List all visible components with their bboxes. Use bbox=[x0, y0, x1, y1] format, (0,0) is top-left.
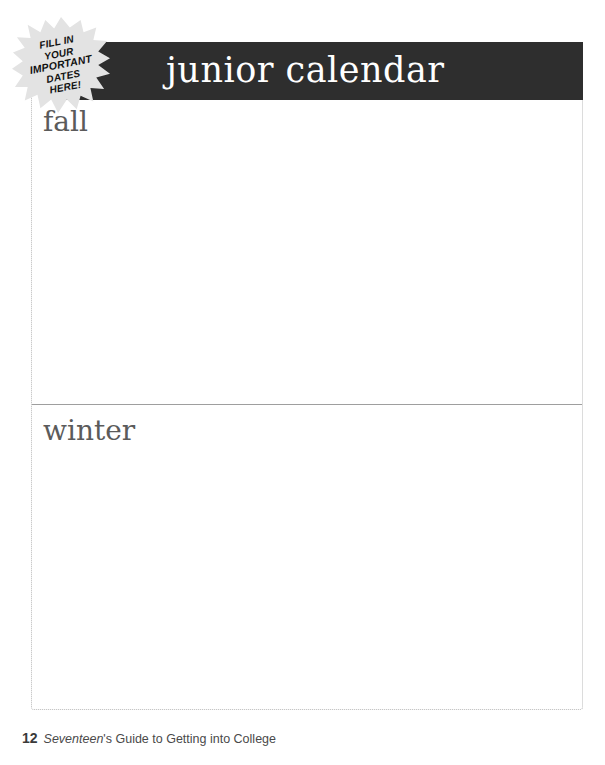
footer-page-number: 12 bbox=[22, 730, 38, 746]
page-footer: 12 Seventeen's Guide to Getting into Col… bbox=[22, 730, 276, 746]
season-label-winter: winter bbox=[43, 417, 135, 445]
season-label-fall: fall bbox=[43, 108, 88, 136]
footer-brand-name: Seventeen bbox=[44, 732, 104, 746]
season-writing-area-winter[interactable] bbox=[32, 405, 582, 710]
fill-in-dates-starburst: FILL IN YOUR IMPORTANT DATES HERE! bbox=[12, 17, 110, 113]
page-title: junior calendar bbox=[166, 53, 444, 88]
footer-caption-rest: 's Guide to Getting into College bbox=[103, 732, 276, 746]
footer-caption: Seventeen's Guide to Getting into Colleg… bbox=[44, 732, 276, 746]
title-banner: junior calendar bbox=[66, 42, 583, 100]
season-writing-area-fall[interactable] bbox=[32, 100, 582, 404]
page-canvas: junior calendar FILL IN YOUR IMPORTANT D… bbox=[0, 0, 605, 765]
